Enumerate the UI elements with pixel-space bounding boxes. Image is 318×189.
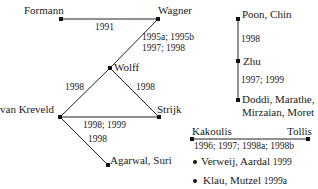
singleton-name: Klau, Mutzel bbox=[203, 174, 261, 186]
singleton-verweij-aardal: Verweij, Aardal 1999 bbox=[201, 156, 292, 168]
edge-label-wagner-wolff-1: 1995a; 1995b bbox=[142, 33, 194, 43]
edge-label-kakoulis-tollis: 1996; 1997; 1998a; 1998b bbox=[194, 142, 294, 152]
node-formann bbox=[59, 17, 63, 21]
edge-label-zhu-doddi: 1997; 1999 bbox=[241, 76, 284, 86]
label-zhu: Zhu bbox=[243, 56, 261, 67]
label-wolff: Wolff bbox=[114, 62, 139, 73]
label-doddi-line1: Doddi, Marathe, bbox=[242, 94, 314, 105]
singleton-name: Verweij, Aardal bbox=[201, 155, 270, 167]
node-van-kreveld bbox=[58, 115, 62, 119]
bullet-icon bbox=[193, 179, 197, 183]
label-doddi-line2: Mirzaian, Moret bbox=[242, 107, 314, 118]
edge-label-wagner-wolff-2: 1997; 1998 bbox=[142, 44, 185, 54]
label-strijk: Strijk bbox=[157, 104, 181, 115]
edge-label-formann-wagner: 1991 bbox=[95, 23, 114, 33]
node-zhu bbox=[236, 59, 240, 63]
label-wagner: Wagner bbox=[158, 5, 192, 16]
label-formann: Formann bbox=[24, 5, 64, 16]
edge-label-wolff-vankreveld: 1998 bbox=[65, 83, 84, 93]
node-tollis bbox=[306, 137, 310, 141]
label-van-kreveld: van Kreveld bbox=[0, 104, 54, 115]
edge-label-vankreveld-strijk: 1998; 1999 bbox=[83, 121, 126, 131]
bullet-icon bbox=[193, 160, 197, 164]
singleton-klau-mutzel: Klau, Mutzel 1999a bbox=[203, 175, 287, 187]
singleton-year: 1999 bbox=[273, 157, 292, 167]
node-wagner bbox=[156, 17, 160, 21]
node-doddi bbox=[236, 98, 240, 102]
node-poon-chin bbox=[236, 17, 240, 21]
node-strijk bbox=[157, 115, 161, 119]
edge-label-wolff-strijk: 1998 bbox=[136, 83, 155, 93]
label-agarwal-suri: Agarwal, Suri bbox=[110, 155, 172, 166]
node-wolff bbox=[108, 66, 112, 70]
edge-label-vankreveld-agarwal: 1998 bbox=[88, 135, 107, 145]
singleton-year: 1999a bbox=[264, 176, 287, 186]
label-tollis: Tollis bbox=[287, 126, 312, 137]
edge-label-poon-zhu: 1998 bbox=[241, 35, 260, 45]
label-kakoulis: Kakoulis bbox=[192, 126, 232, 137]
label-poon-chin: Poon, Chin bbox=[242, 9, 292, 20]
